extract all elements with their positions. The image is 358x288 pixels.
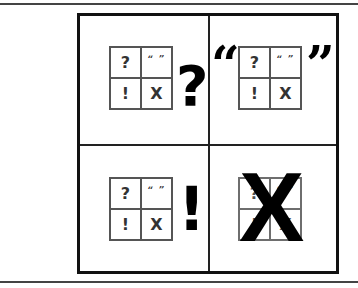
cell-quotes: “ ” bbox=[141, 178, 172, 209]
cell-exclamation: ! bbox=[239, 78, 270, 109]
panel-question: ? “ ” ! X ? bbox=[80, 16, 208, 144]
cell-x: X bbox=[141, 209, 172, 240]
punctuation-grid: ? “ ” ! X bbox=[109, 177, 173, 241]
bottom-rule bbox=[0, 281, 358, 283]
panel-x: ? “ ” ! X X bbox=[209, 145, 337, 273]
cell-question: ? bbox=[239, 47, 270, 78]
cell-question: ? bbox=[110, 47, 141, 78]
big-exclamation-mark: ! bbox=[178, 179, 205, 239]
cell-x: X bbox=[270, 78, 301, 109]
cell-question: ? bbox=[110, 178, 141, 209]
punctuation-grid: ? “ ” ! X bbox=[238, 46, 302, 110]
cell-quotes: “ ” bbox=[141, 47, 172, 78]
big-question-mark: ? bbox=[176, 58, 208, 114]
figure-frame: ? “ ” ! X ? “ ? “ ” ! X ” ? “ ” ! X ! ? … bbox=[77, 13, 339, 274]
top-rule bbox=[0, 3, 358, 5]
cell-exclamation: ! bbox=[110, 78, 141, 109]
punctuation-grid: ? “ ” ! X bbox=[109, 46, 173, 110]
big-x-mark: X bbox=[239, 158, 304, 256]
panel-exclamation: ? “ ” ! X ! bbox=[80, 145, 208, 273]
cell-quotes: “ ” bbox=[270, 47, 301, 78]
big-open-quote: “ bbox=[211, 40, 240, 90]
big-close-quote: ” bbox=[306, 40, 335, 90]
panel-quotes: “ ? “ ” ! X ” bbox=[209, 16, 337, 144]
cell-exclamation: ! bbox=[110, 209, 141, 240]
cell-x: X bbox=[141, 78, 172, 109]
